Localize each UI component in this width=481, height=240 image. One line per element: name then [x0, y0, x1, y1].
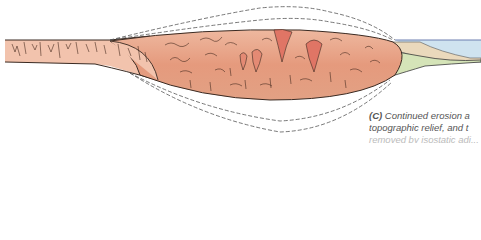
figure-caption: (C) Continued erosion a topographic reli…: [369, 110, 481, 143]
caption-line-2: topographic relief, and t: [369, 122, 481, 134]
caption-line-1: Continued erosion a: [385, 110, 470, 121]
panel-label: (C): [369, 110, 382, 121]
caption-line-3: removed by isostatic adj...: [369, 134, 481, 143]
